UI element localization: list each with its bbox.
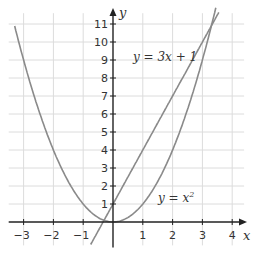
y-axis-label: y [118,5,127,20]
grid [0,13,244,245]
y-tick-label: 4 [101,144,108,157]
x-tick-label: 3 [199,229,206,242]
curve-3x1 [91,12,219,244]
y-tick-label: 11 [94,18,108,31]
x-tick-label: 4 [229,229,236,242]
parabola-equation-label: y = x2 [157,190,194,205]
y-tick-label: 10 [94,36,108,49]
y-axis-arrow-icon [110,8,117,16]
graph-chart: −3−2−112341234567891011yxy = 3x + 1y = x… [0,0,265,257]
x-axis-label: x [243,228,251,243]
x-axis-arrow-icon [239,219,247,226]
y-tick-label: 3 [101,162,108,175]
y-tick-label: 2 [101,180,108,193]
y-tick-label: 8 [101,72,108,85]
line-equation-label: y = 3x + 1 [132,50,197,64]
y-tick-label: 6 [101,108,108,121]
y-tick-label: 7 [101,90,108,103]
labels: −3−2−112341234567891011yxy = 3x + 1y = x… [13,5,251,243]
x-tick-label: −3 [13,229,29,242]
x-tick-label: 2 [169,229,176,242]
x-tick-label: −2 [43,229,59,242]
x-tick-label: 1 [139,229,146,242]
x-tick-label: −1 [73,229,89,242]
y-tick-label: 5 [101,126,108,139]
curve-x2 [15,8,216,222]
y-tick-label: 9 [101,54,108,67]
curves [15,8,219,245]
y-tick-label: 1 [101,198,108,211]
